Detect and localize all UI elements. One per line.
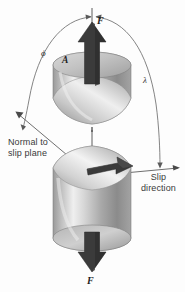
- slip-label-line-1: Slip: [141, 172, 176, 183]
- slip-direction-label: Slip direction: [141, 172, 176, 193]
- force-label-bottom: F: [87, 276, 94, 286]
- slip-geometry-figure: F F A ϕ λ Normal to slip plane Slip dire…: [0, 0, 185, 292]
- normal-label-line-1: Normal to: [8, 137, 48, 148]
- normal-to-slip-plane-label: Normal to slip plane: [8, 137, 48, 158]
- angle-lambda-label: λ: [143, 76, 147, 85]
- angle-phi-label: ϕ: [41, 49, 46, 58]
- normal-label-line-2: slip plane: [8, 148, 48, 159]
- slip-label-line-2: direction: [141, 183, 176, 194]
- force-label-top: F: [97, 16, 104, 26]
- area-label: A: [62, 55, 68, 65]
